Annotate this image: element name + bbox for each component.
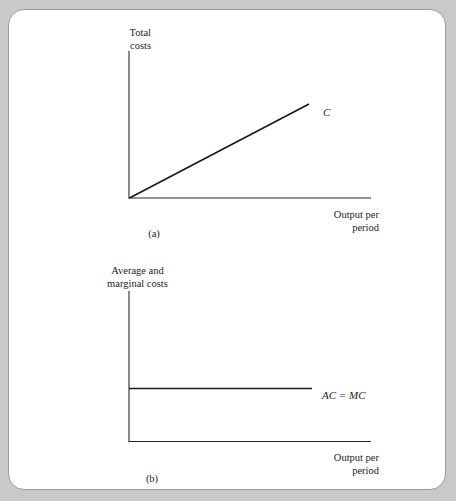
chart-b-y-axis-label: Average and marginal costs (87, 265, 188, 290)
chart-b-canvas (9, 10, 446, 490)
figure-panel: Total costs Output per period C (a) Aver… (8, 9, 446, 490)
chart-b-x-axis-label: Output per period (295, 452, 379, 477)
cut-off-page-text (0, 0, 456, 5)
chart-b-curve-label-ac-mc: AC = MC (322, 389, 365, 402)
chart-b-caption: (b) (132, 473, 172, 485)
